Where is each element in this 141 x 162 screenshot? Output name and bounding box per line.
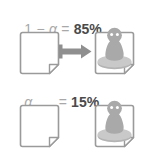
diagram-canvas: 1 − α = 85%: [0, 0, 141, 162]
document-blank-icon: [19, 104, 60, 148]
document-blank-icon: [19, 31, 60, 75]
document-person-icon: [93, 99, 137, 148]
document-person-icon: [93, 26, 137, 75]
arrow-right-icon: [59, 43, 92, 60]
